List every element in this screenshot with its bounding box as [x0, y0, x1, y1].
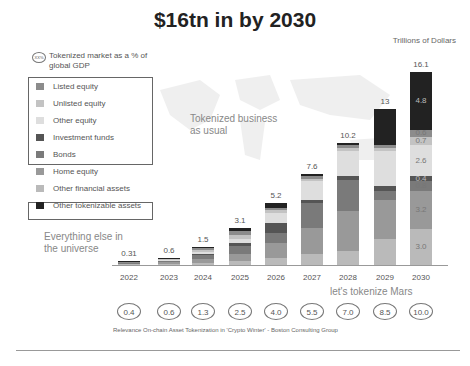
legend-item: Other equity	[28, 112, 153, 129]
legend-swatch-icon	[36, 185, 44, 192]
gdp-percent-badge: 10.0	[409, 303, 433, 320]
bar-segment	[229, 239, 251, 244]
segment-value: 0.6	[410, 129, 432, 137]
bar-segment	[374, 145, 396, 147]
legend-item: Unlisted equity	[28, 95, 153, 112]
gdp-percent-badge: 7.0	[336, 303, 360, 320]
legend-label: Other tokenizable assets	[53, 201, 141, 210]
x-tick-label: 2030	[401, 273, 441, 282]
gdp-percent-badge: 0.6	[157, 303, 181, 320]
bar-segment	[374, 191, 396, 201]
segment-value: 4.8	[410, 97, 432, 105]
legend-item: Other tokenizable assets	[28, 197, 153, 214]
bar-segment: 3.2	[410, 191, 432, 229]
x-tick-label: 2026	[256, 273, 296, 282]
legend-label: Home equity	[53, 167, 98, 176]
bar-segment	[301, 254, 323, 265]
bar-segment	[374, 151, 396, 186]
x-tick-label: 2022	[109, 273, 149, 282]
legend-item: Listed equity	[28, 78, 153, 95]
bar-segment	[301, 176, 323, 178]
legend-item: Other financial assets	[28, 180, 153, 197]
bar-segment	[192, 250, 214, 252]
bar-segment	[158, 258, 180, 259]
bar-segment	[229, 243, 251, 245]
source-caption: Relevance On-chain Asset Tokenization in…	[113, 327, 338, 333]
bar-total-label: 0.6	[149, 246, 189, 255]
bar-segment	[265, 233, 287, 244]
x-tick-label: 2024	[183, 273, 223, 282]
bar-segment	[192, 248, 214, 250]
bar-segment	[192, 255, 214, 259]
bar-segment: 0.6	[410, 130, 432, 137]
bar-total-label: 7.6	[292, 162, 332, 171]
bar-segment: 0.4	[410, 176, 432, 181]
bar-segment	[301, 179, 323, 181]
legend-swatch-icon	[36, 202, 44, 209]
legend-label: Listed equity	[53, 82, 98, 91]
bar-segment	[158, 262, 180, 264]
gdp-percent-badge: 4.0	[264, 303, 288, 320]
legend-label: Bonds	[53, 150, 76, 159]
bar-segment	[301, 228, 323, 254]
legend-swatch-icon	[36, 151, 44, 158]
bar-total-label: 10.2	[328, 131, 368, 140]
bar-total-label: 13	[365, 97, 405, 106]
legend-label: Other equity	[53, 116, 97, 125]
gdp-percent-badge: 8.5	[373, 303, 397, 320]
legend-swatch-icon	[36, 134, 44, 141]
bar-total-label: 3.1	[220, 216, 260, 225]
x-axis-line	[112, 265, 448, 266]
bar-segment	[301, 200, 323, 202]
bar-segment	[374, 186, 396, 191]
bar-segment	[374, 109, 396, 145]
bar-segment	[301, 174, 323, 176]
gdp-percent-badge: 5.5	[300, 303, 324, 320]
legend-item: Home equity	[28, 163, 153, 180]
gdp-key-text: Tokenized market as a % of global GDP	[49, 51, 169, 71]
bar-segment	[337, 145, 359, 147]
segment-value: 0.7	[410, 137, 432, 145]
bar-segment	[337, 143, 359, 145]
bar-segment	[374, 239, 396, 265]
bar-segment	[229, 231, 251, 235]
mars-note: let's tokenize Mars	[330, 286, 413, 297]
bar-segment	[229, 235, 251, 239]
x-tick-label: 2027	[292, 273, 332, 282]
gdp-percent-badge: 0.4	[117, 303, 141, 320]
bar-2026	[265, 203, 287, 265]
x-tick-label: 2029	[365, 273, 405, 282]
legend-item: Investment funds	[28, 129, 153, 146]
bar-segment	[158, 260, 180, 261]
gdp-percent-badge: 1.3	[191, 303, 215, 320]
business-as-usual-note: Tokenized business as usual	[190, 113, 290, 137]
bar-segment	[158, 258, 180, 259]
bar-segment	[192, 254, 214, 256]
bar-total-label: 16.1	[401, 60, 441, 69]
gdp-oval-icon: XX%	[32, 52, 46, 63]
legend-swatch-icon	[36, 168, 44, 175]
legend-item: Bonds	[28, 146, 153, 163]
bar-2024	[192, 247, 214, 265]
bar-segment	[158, 259, 180, 260]
legend-swatch-icon	[36, 83, 44, 90]
bar-2029	[374, 109, 396, 265]
segment-value: 0.8	[410, 182, 432, 190]
bar-segment	[229, 246, 251, 254]
bar-segment	[337, 180, 359, 211]
bar-segment	[158, 260, 180, 261]
legend-label: Unlisted equity	[53, 99, 105, 108]
bar-2023	[158, 258, 180, 265]
bar-segment	[229, 228, 251, 232]
legend-label: Investment funds	[53, 133, 114, 142]
bar-segment	[265, 208, 287, 210]
bar-segment	[192, 247, 214, 248]
bar-segment: 2.6	[410, 145, 432, 176]
bar-segment	[337, 151, 359, 176]
bar-segment	[265, 258, 287, 265]
bar-segment	[265, 223, 287, 233]
bar-2025	[229, 228, 251, 265]
bar-segment	[265, 243, 287, 257]
gdp-percent-badge: 2.5	[228, 303, 252, 320]
bar-segment	[158, 261, 180, 262]
